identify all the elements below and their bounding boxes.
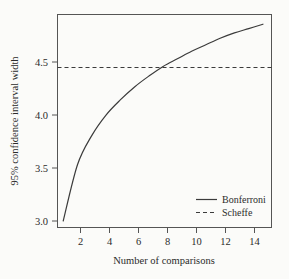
y-tick-label-4-5: 4.5: [35, 57, 48, 68]
y-tick-label-4-0: 4.0: [35, 110, 48, 121]
x-tick-label-10: 10: [191, 236, 202, 247]
x-tick-label-4: 4: [107, 236, 113, 247]
y-axis-title: 95% confidence interval width: [9, 56, 20, 186]
legend-label-bonferroni: Bonferroni: [222, 194, 266, 205]
x-tick-label-12: 12: [220, 236, 231, 247]
x-tick-label-8: 8: [165, 236, 170, 247]
legend-label-scheffe: Scheffe: [222, 207, 253, 218]
x-tick-label-14: 14: [249, 236, 260, 247]
x-axis-title: Number of comparisons: [113, 255, 214, 266]
x-tick-label-2: 2: [78, 236, 83, 247]
x-tick-label-6: 6: [136, 236, 141, 247]
chart-svg: 3.0 3.5 4.0 4.5 2 4 6 8 10 12 14: [0, 0, 289, 279]
y-tick-label-3-0: 3.0: [35, 216, 48, 227]
chart-background: [0, 0, 289, 279]
figure-container: 3.0 3.5 4.0 4.5 2 4 6 8 10 12 14: [0, 0, 289, 279]
y-tick-label-3-5: 3.5: [35, 163, 48, 174]
